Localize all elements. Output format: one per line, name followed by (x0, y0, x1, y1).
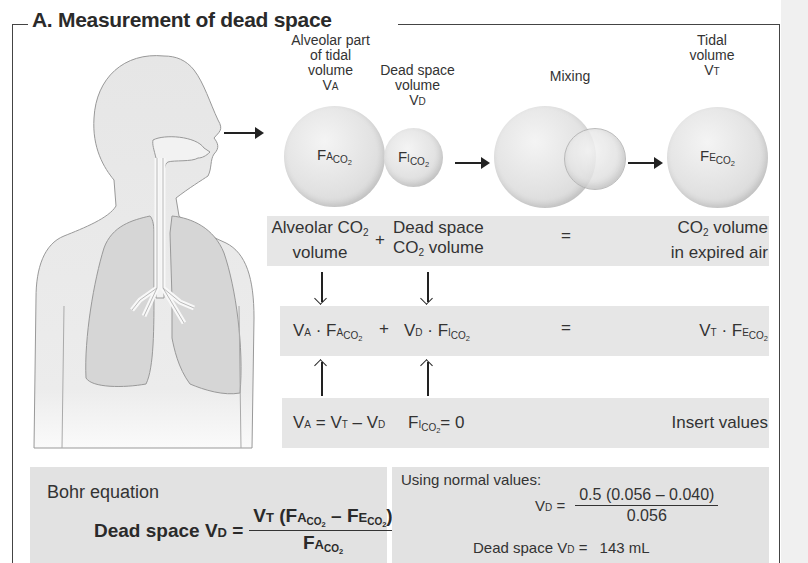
frame-left-border (12, 24, 13, 563)
fico2-label: FICO2 (384, 148, 443, 169)
va-faco2-term: VA · FACO2 (293, 321, 362, 343)
mixing-arrow (455, 162, 488, 164)
va-symbol: VA (283, 78, 378, 94)
label-line: Dead space (375, 63, 460, 78)
dead-space-value: 143 mL (600, 539, 650, 556)
mixing-small-sphere (564, 128, 626, 190)
down-arrow-alveolar (321, 272, 323, 302)
bohr-numerator: VT (FACO2 – FECO2) (249, 505, 396, 531)
label-line: Tidal (677, 33, 747, 48)
normal-values-equation: VD = 0.5 (0.056 – 0.040) 0.056 (535, 486, 718, 525)
alveolar-volume-sphere: FACO2 (284, 106, 385, 207)
tidal-volume-sphere: FECO2 (667, 107, 768, 208)
bohr-denominator: FACO2 (303, 531, 343, 556)
bohr-lhs: Dead space VD = (94, 520, 243, 542)
formula-equals: = (561, 318, 571, 338)
formula-plus: + (379, 319, 389, 339)
insert-values-text: Insert values (640, 413, 768, 433)
label-line: volume (375, 78, 460, 93)
result-arrow (628, 162, 661, 164)
normal-numerator: 0.5 (0.056 – 0.040) (575, 486, 718, 506)
fico2-equals-zero: FICO2= 0 (408, 413, 464, 435)
vd-lhs: VD = (535, 497, 565, 514)
mixing-label: Mixing (530, 69, 610, 84)
up-arrow-alveolar (321, 362, 323, 396)
normal-values-heading: Using normal values: (401, 471, 541, 488)
label-line: volume (283, 63, 378, 78)
page-margin-strip (781, 0, 808, 563)
figure-title: A. Measurement of dead space (32, 8, 332, 32)
expired-co2-volume-text: CO2 volume in expired air (648, 218, 768, 263)
faco2-label: FACO2 (284, 146, 385, 167)
va-equals-vt-minus-vd: VA = VT – VD (293, 413, 385, 433)
dead-space-sphere: FICO2 (384, 128, 443, 187)
dead-space-co2-volume-text: Dead space CO2 volume (393, 218, 483, 263)
exhale-arrow (224, 132, 262, 134)
normal-denominator: 0.056 (627, 506, 667, 525)
alveolar-co2-volume-text: Alveolar CO2 volume (265, 218, 375, 263)
label-line: Alveolar part (283, 33, 378, 48)
feco2-label: FECO2 (667, 147, 768, 168)
bohr-heading: Bohr equation (47, 482, 159, 503)
bohr-equation: Dead space VD = VT (FACO2 – FECO2) FACO2 (94, 505, 397, 556)
down-arrow-dead-space (427, 272, 429, 302)
human-respiratory-illustration (14, 48, 274, 458)
label-line: volume (677, 48, 747, 63)
vd-fico2-term: VD · FICO2 (404, 321, 470, 343)
dead-space-result: Dead space VD = 143 mL (473, 539, 650, 556)
tidal-volume-label: Tidal volume VT (677, 33, 747, 79)
vd-symbol: VD (375, 93, 460, 109)
dead-space-volume-label: Dead space volume VD (375, 63, 460, 109)
frame-right-border (779, 24, 780, 563)
normal-fraction: 0.5 (0.056 – 0.040) 0.056 (575, 486, 718, 525)
frame-top-border-left (12, 24, 28, 25)
up-arrow-dead-space (427, 362, 429, 396)
plus-sign: + (375, 230, 385, 250)
frame-top-border-right (398, 24, 779, 25)
equals-sign: = (561, 226, 571, 246)
alveolar-volume-label: Alveolar part of tidal volume VA (283, 33, 378, 94)
bohr-fraction: VT (FACO2 – FECO2) FACO2 (249, 505, 396, 556)
vt-symbol: VT (677, 63, 747, 79)
vt-feco2-term: VT · FECO2 (650, 321, 768, 343)
label-line: of tidal (283, 48, 378, 63)
